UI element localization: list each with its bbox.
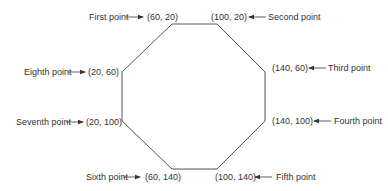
vertex-label-fifth: (100, 140) Fifth point xyxy=(215,172,316,182)
vertex-label-first: First point (60, 20) xyxy=(89,12,178,22)
point-name-label: Seventh point xyxy=(16,117,72,127)
vertex-label-seventh: Seventh point (20, 100) xyxy=(16,117,122,127)
vertex-label-fourth: (140, 100) Fourth point xyxy=(272,116,383,126)
point-name-label: Fourth point xyxy=(334,116,383,126)
point-name-label: First point xyxy=(89,12,129,22)
point-coords-label: (140, 100) xyxy=(272,116,313,126)
point-name-label: Fifth point xyxy=(276,172,316,182)
point-coords-label: (100, 140) xyxy=(215,172,256,182)
point-coords-label: (140, 60) xyxy=(272,63,308,73)
point-name-label: Sixth point xyxy=(86,172,129,182)
point-coords-label: (60, 140) xyxy=(145,172,181,182)
point-coords-label: (100, 20) xyxy=(211,12,247,22)
point-name-label: Second point xyxy=(268,12,321,22)
vertex-label-third: (140, 60) Third point xyxy=(272,63,371,73)
point-name-label: Third point xyxy=(328,63,371,73)
vertex-label-eighth: Eighth point (20, 60) xyxy=(24,67,119,77)
vertex-label-second: (100, 20) Second point xyxy=(211,12,321,22)
vertex-label-sixth: Sixth point (60, 140) xyxy=(86,172,181,182)
octagon-shape xyxy=(122,24,265,169)
point-coords-label: (60, 20) xyxy=(147,12,178,22)
octagon-diagram: First point (60, 20) (100, 20) Second po… xyxy=(0,0,388,191)
point-name-label: Eighth point xyxy=(24,67,72,77)
diagram-canvas: First point (60, 20) (100, 20) Second po… xyxy=(0,0,388,191)
point-coords-label: (20, 100) xyxy=(86,117,122,127)
point-coords-label: (20, 60) xyxy=(88,67,119,77)
